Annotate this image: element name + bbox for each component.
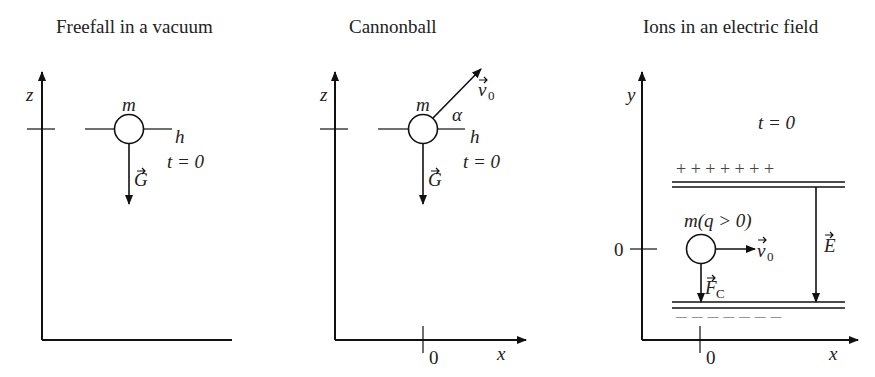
origin-label: 0	[429, 347, 439, 368]
minus-signs: — — — — — — —	[675, 310, 783, 322]
panel-electric-field: Ions in an electric field y x 0 0 t = 0 …	[614, 16, 858, 368]
mass-label: m	[122, 94, 136, 115]
height-label: h	[470, 126, 480, 147]
panel-cannonball: Cannonball z x 0 m α h t = 0 v 0 G	[319, 16, 526, 368]
force-subscript: C	[716, 286, 725, 301]
mass-charge-label: m(q > 0)	[684, 210, 752, 232]
origin-x-label: 0	[706, 347, 716, 368]
ion-ball	[687, 235, 716, 264]
x-axis-label: x	[496, 343, 506, 364]
velocity-label: v	[757, 240, 766, 261]
x-axis-label: x	[828, 343, 838, 364]
field-label: E	[823, 235, 836, 256]
origin-y-label: 0	[614, 239, 624, 260]
panel-freefall: Freefall in a vacuum z m h t = 0 G	[25, 16, 232, 340]
physics-diagram: Freefall in a vacuum z m h t = 0 G Canno…	[0, 0, 875, 377]
velocity-subscript: 0	[767, 249, 774, 264]
height-label: h	[175, 126, 185, 147]
mass-ball	[409, 115, 438, 144]
plus-signs: + + + + + + +	[676, 159, 774, 179]
panel-title: Freefall in a vacuum	[56, 16, 213, 37]
panel-title: Cannonball	[349, 16, 437, 37]
y-axis-label: y	[625, 84, 636, 105]
panel-title: Ions in an electric field	[643, 16, 819, 37]
time-label: t = 0	[758, 112, 796, 133]
time-label: t = 0	[463, 151, 501, 172]
gravity-label: G	[428, 169, 442, 190]
mass-label: m	[416, 94, 430, 115]
velocity-subscript: 0	[488, 88, 495, 103]
angle-label: α	[452, 104, 463, 125]
mass-ball	[115, 115, 144, 144]
gravity-label: G	[134, 169, 148, 190]
time-label: t = 0	[167, 151, 205, 172]
z-axis-label: z	[319, 84, 328, 105]
z-axis-label: z	[25, 84, 34, 105]
